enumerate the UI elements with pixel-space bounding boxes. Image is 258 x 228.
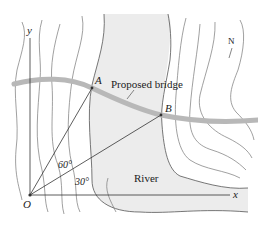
bridge-label: Proposed bridge — [111, 78, 183, 90]
contour-lines-right — [175, 18, 254, 178]
angle-60-label: 60° — [58, 159, 72, 170]
y-axis-label: y — [26, 24, 32, 36]
diagram-canvas: y x O A B Proposed bridge River N 60° 30… — [0, 0, 258, 228]
north-label: N — [228, 36, 235, 46]
river-label: River — [134, 172, 159, 184]
x-axis-label: x — [232, 188, 238, 200]
river-right-bank — [162, 14, 248, 188]
origin-label: O — [23, 198, 31, 210]
diagram-svg: y x O A B Proposed bridge River N 60° 30… — [0, 0, 258, 228]
point-B — [160, 114, 163, 117]
point-A-label: A — [94, 74, 102, 86]
point-B-label: B — [165, 102, 172, 114]
point-origin — [28, 193, 31, 196]
point-A — [91, 87, 94, 90]
north-arrow-icon — [229, 48, 232, 58]
angle-30-label: 30° — [74, 176, 89, 187]
